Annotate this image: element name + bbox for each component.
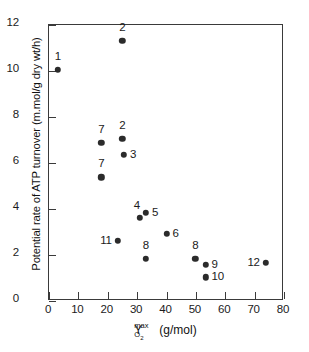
x-tick-label-80: 80 (268, 303, 298, 315)
data-point-label: 6 (173, 227, 179, 239)
data-point (143, 210, 149, 216)
data-point-label: 10 (212, 270, 224, 282)
plot-area-frame: 127237456118891012 (48, 24, 283, 300)
data-point (202, 262, 208, 268)
y-tick-label-10: 10 (0, 62, 19, 74)
data-point-label: 7 (92, 123, 110, 135)
data-point (121, 152, 127, 158)
y-tick-6 (49, 163, 56, 164)
x-tick-30 (137, 292, 138, 299)
x-tick-label-20: 20 (92, 303, 122, 315)
x-tick-50 (196, 292, 197, 299)
x-tick-0 (49, 292, 50, 299)
y-axis-title: Potential rate of ATP turnover (m.mol/g … (30, 22, 42, 286)
data-point (192, 256, 198, 262)
y-tick-0 (49, 301, 56, 302)
x-axis-title: YmaxO2(g/mol) (48, 323, 283, 337)
data-point (119, 136, 125, 142)
x-tick-40 (167, 292, 168, 299)
data-point-label: 9 (212, 258, 218, 270)
data-point-label: 1 (49, 50, 67, 62)
x-tick-80 (284, 292, 285, 299)
y-tick-4 (49, 209, 56, 210)
y-tick-label-6: 6 (0, 154, 19, 166)
data-point (143, 256, 149, 262)
x-tick-60 (225, 292, 226, 299)
data-point-label: 4 (125, 199, 140, 211)
x-tick-20 (108, 292, 109, 299)
y-tick-8 (49, 117, 56, 118)
y-tick-2 (49, 255, 56, 256)
data-point (98, 174, 104, 180)
y-tick-label-2: 2 (0, 246, 19, 258)
data-point-label: 7 (92, 157, 110, 169)
y-tick-label-4: 4 (0, 200, 19, 212)
scatter-chart-figure: 127237456118891012 024681012 01020304050… (0, 0, 309, 352)
data-point-label: 2 (113, 119, 131, 131)
y-symbol-subscript: O2 (134, 330, 143, 341)
data-point (137, 214, 143, 220)
x-tick-label-30: 30 (121, 303, 151, 315)
x-tick-label-0: 0 (33, 303, 63, 315)
data-point (55, 67, 61, 73)
data-point-label: 8 (186, 239, 204, 251)
x-tick-70 (255, 292, 256, 299)
y-tick-label-8: 8 (0, 108, 19, 120)
data-point-label: 12 (242, 256, 260, 268)
x-tick-10 (78, 292, 79, 299)
data-point (119, 38, 125, 44)
x-tick-label-60: 60 (209, 303, 239, 315)
x-tick-label-10: 10 (62, 303, 92, 315)
y-tick-label-0: 0 (0, 292, 19, 304)
x-tick-label-40: 40 (151, 303, 181, 315)
y-symbol-superscript: max (134, 321, 148, 330)
data-point-label: 3 (130, 148, 136, 160)
data-point (202, 274, 208, 280)
x-tick-label-50: 50 (180, 303, 210, 315)
data-point-label: 11 (94, 234, 112, 246)
y-tick-12 (49, 25, 56, 26)
data-point (98, 140, 104, 146)
data-point (115, 237, 121, 243)
data-point (163, 231, 169, 237)
y-symbol-base: YmaxO2 (134, 323, 159, 337)
data-point-label: 2 (113, 21, 131, 33)
data-point-label: 8 (137, 239, 155, 251)
data-point-label: 5 (152, 206, 158, 218)
x-axis-units: (g/mol) (159, 323, 196, 337)
data-point (263, 259, 269, 265)
y-tick-label-12: 12 (0, 16, 19, 28)
x-tick-label-70: 70 (239, 303, 269, 315)
